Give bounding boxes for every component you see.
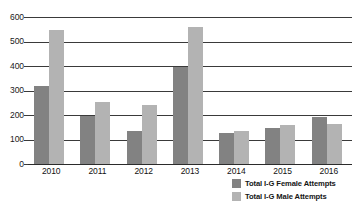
bar[interactable] [127,131,142,164]
bar-group [28,17,74,164]
legend-label-female: Total I-G Female Attempts [245,179,336,188]
y-tick-label: 100 [0,135,24,144]
y-tick-label: 300 [0,86,24,95]
chart-legend: Total I-G Female Attempts Total I-G Male… [232,178,356,204]
x-tick-label: 2013 [167,166,213,177]
y-tick-label: 500 [0,37,24,46]
bar[interactable] [80,116,95,164]
y-tick-label: 400 [0,62,24,71]
legend-item-female[interactable]: Total I-G Female Attempts [232,178,356,189]
y-tick-label: 0 [0,160,24,169]
bars-layer [28,17,352,164]
y-tick-label: 600 [0,13,24,22]
bar[interactable] [234,131,249,164]
y-axis: 0100200300400500600 [0,0,24,213]
bar[interactable] [265,128,280,164]
gridline [28,164,352,165]
bar[interactable] [95,102,110,164]
legend-swatch-male-icon [232,192,241,201]
bar-group [306,17,352,164]
bar[interactable] [49,30,64,164]
x-tick-label: 2015 [259,166,305,177]
bar[interactable] [142,105,157,164]
bar-group [74,17,120,164]
bar-group [213,17,259,164]
bar[interactable] [327,124,342,164]
bar[interactable] [173,67,188,164]
x-tick-label: 2014 [213,166,259,177]
bar[interactable] [188,27,203,164]
y-tick-label: 200 [0,111,24,120]
legend-item-male[interactable]: Total I-G Male Attempts [232,191,356,202]
bar-chart-figure: 0100200300400500600 20102011201220132014… [0,0,361,213]
legend-label-male: Total I-G Male Attempts [245,192,327,201]
bar-group [121,17,167,164]
bar-group [167,17,213,164]
bar[interactable] [312,117,327,164]
legend-swatch-female-icon [232,179,241,188]
bar[interactable] [219,133,234,164]
bar[interactable] [280,125,295,164]
x-tick-label: 2010 [28,166,74,177]
x-tick-label: 2011 [74,166,120,177]
bar-group [259,17,305,164]
x-tick-label: 2012 [121,166,167,177]
bar[interactable] [34,86,49,164]
x-tick-label: 2016 [306,166,352,177]
